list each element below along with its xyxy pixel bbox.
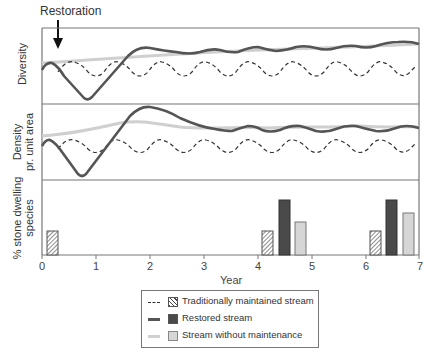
bar-restored-y6 bbox=[386, 200, 397, 255]
bar-traditional-y0 bbox=[47, 231, 58, 255]
plot-frame bbox=[42, 28, 419, 255]
series-restored bbox=[42, 107, 419, 176]
hatched-swatch-icon bbox=[168, 297, 178, 307]
x-tick-6: 6 bbox=[356, 260, 376, 272]
chart-plot bbox=[0, 0, 433, 290]
x-tick-3: 3 bbox=[194, 260, 214, 272]
bar-without-maintenance-y6 bbox=[403, 213, 414, 255]
solid-dark-line-icon bbox=[148, 318, 160, 321]
x-tick-2: 2 bbox=[140, 260, 160, 272]
x-tick-1: 1 bbox=[86, 260, 106, 272]
panel-stone-dwelling bbox=[47, 200, 414, 255]
panel-density bbox=[42, 107, 419, 176]
bar-traditional-y6 bbox=[370, 231, 381, 255]
panel-diversity bbox=[42, 42, 419, 100]
light-swatch-icon bbox=[168, 331, 178, 341]
x-axis-label: Year bbox=[220, 274, 242, 286]
solid-light-line-icon bbox=[148, 335, 160, 338]
x-tick-0: 0 bbox=[32, 260, 52, 272]
x-axis-ticks bbox=[42, 255, 419, 259]
legend-item-without-maintenance: Stream without maintenance bbox=[142, 328, 318, 344]
bar-traditional-y4 bbox=[262, 231, 273, 255]
legend-item-traditional: Traditionally maintained stream bbox=[142, 294, 318, 310]
bar-restored-y4 bbox=[279, 200, 290, 255]
dark-swatch-icon bbox=[168, 314, 178, 324]
legend: Traditionally maintained stream Restored… bbox=[141, 290, 319, 348]
x-tick-4: 4 bbox=[248, 260, 268, 272]
dashed-line-icon bbox=[148, 302, 160, 303]
bar-without-maintenance-y4 bbox=[295, 222, 306, 255]
x-tick-5: 5 bbox=[302, 260, 322, 272]
x-tick-7: 7 bbox=[410, 260, 430, 272]
legend-item-restored: Restored stream bbox=[142, 311, 318, 327]
